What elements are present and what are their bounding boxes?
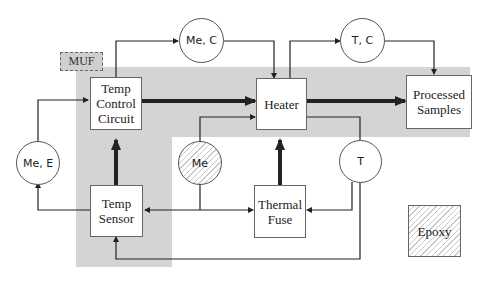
circle-t: T — [339, 140, 382, 183]
thermal-fuse-box: Thermal Fuse — [254, 185, 306, 238]
temp-control-circuit-box: Temp Control Circuit — [90, 77, 142, 130]
circle-me-c: Me, C — [179, 18, 224, 63]
epoxy-legend-box: Epoxy — [408, 205, 461, 257]
heater-box: Heater — [256, 78, 307, 130]
processed-samples-box: Processed Samples — [406, 75, 472, 129]
muf-label: MUF — [60, 52, 103, 71]
circle-me-e: Me, E — [16, 141, 60, 185]
temp-sensor-box: Temp Sensor — [90, 185, 143, 237]
circle-t-c: T, C — [340, 18, 385, 63]
diagram-canvas: MUF Temp Control Circuit Heater Processe… — [0, 0, 484, 281]
circle-me-hatched: Me — [178, 141, 222, 185]
